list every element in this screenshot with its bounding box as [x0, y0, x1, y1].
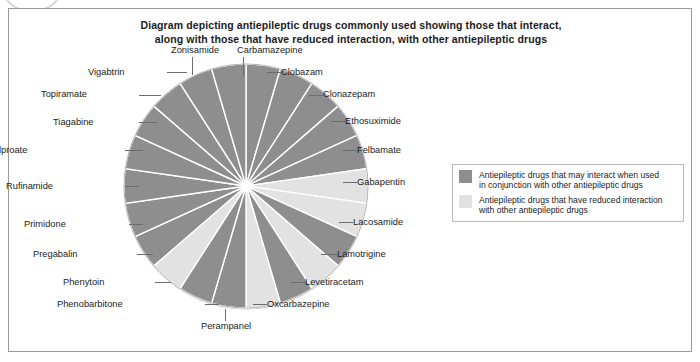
leader-line — [205, 304, 219, 305]
leader-line — [331, 121, 345, 122]
legend-swatch-interacting — [459, 170, 472, 183]
pie-label-phenytoin: Phenytoin — [63, 277, 104, 288]
leader-line — [139, 95, 161, 96]
pie-label-felbamate: Felbamate — [357, 145, 401, 156]
leader-line — [155, 282, 171, 283]
leader-line — [321, 254, 337, 255]
legend-swatch-reduced — [459, 195, 472, 208]
legend-label-reduced-line1: Antiepileptic drugs that have reduced in… — [479, 195, 662, 205]
leader-line — [309, 95, 323, 96]
leader-line — [343, 182, 357, 183]
pie-label-clonazepam: Clonazepam — [323, 89, 375, 100]
pie-label-clobazam: Clobazam — [281, 67, 323, 78]
pie-label-perampanel: Perampanel — [201, 321, 251, 332]
legend-label-interacting-line1: Antiepileptic drugs that may interact wh… — [479, 170, 659, 180]
leader-line — [167, 72, 187, 73]
leader-line — [225, 309, 226, 321]
diagram-frame: Diagram depicting antiepileptic drugs co… — [8, 8, 692, 352]
legend-item-interacting: Antiepileptic drugs that may interact wh… — [459, 170, 679, 191]
legend-label-reduced-line2: with other antiepileptic drugs — [479, 205, 588, 215]
pie-label-primidone: Primidone — [24, 219, 66, 230]
legend-label-interacting-line2: in conjunction with other antiepileptic … — [479, 180, 643, 190]
pie-label-ethosuximide: Ethosuximide — [345, 116, 401, 127]
leader-line — [243, 57, 244, 77]
pie-label-zonisamide: Zonisamide — [171, 45, 219, 56]
legend: Antiepileptic drugs that may interact wh… — [452, 164, 684, 222]
leader-line — [253, 304, 267, 305]
leader-line — [129, 224, 143, 225]
leader-line — [139, 122, 157, 123]
pie-label-lamotrigine: Lamotrigine — [337, 249, 386, 260]
pie-label-carbamazepine: Carbamazepine — [237, 45, 303, 56]
pie-label-oxcarbazepine: Oxcarbazepine — [267, 299, 330, 310]
legend-item-reduced: Antiepileptic drugs that have reduced in… — [459, 195, 679, 216]
leader-line — [125, 150, 143, 151]
pie-label-pregabalin: Pregabalin — [33, 249, 77, 260]
leader-line — [343, 150, 357, 151]
leader-line — [267, 72, 281, 73]
pie-label-gabapentin: Gabapentin — [357, 177, 405, 188]
pie-label-rufinamide: Rufinamide — [6, 181, 53, 192]
pie-label-tiagabine: Tiagabine — [53, 117, 94, 128]
leader-line — [137, 254, 153, 255]
leader-line — [125, 186, 139, 187]
pie-label-topiramate: Topiramate — [41, 89, 87, 100]
leader-line — [192, 57, 193, 75]
leader-line — [291, 282, 305, 283]
pie-label-lacosamide: Lacosamide — [353, 217, 403, 228]
pie-label-levetiracetam: Levetiracetam — [305, 277, 363, 288]
pie-label-vigabtrin: Vigabtrin — [88, 67, 125, 78]
leader-line — [339, 222, 353, 223]
legend-label-interacting: Antiepileptic drugs that may interact wh… — [479, 170, 659, 191]
pie-label-sodium-valproate: Sodium valproate — [0, 145, 27, 156]
pie-label-phenobarbitone: Phenobarbitone — [57, 299, 123, 310]
legend-label-reduced: Antiepileptic drugs that have reduced in… — [479, 195, 662, 216]
